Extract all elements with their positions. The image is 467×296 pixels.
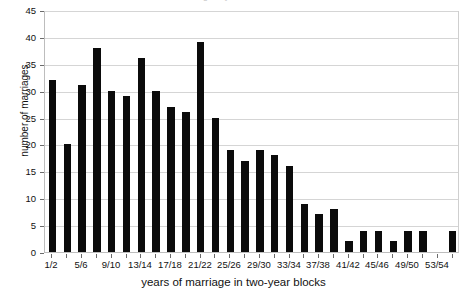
y-tick-mark xyxy=(40,145,44,146)
bar xyxy=(301,204,308,252)
bar xyxy=(404,231,411,253)
x-tick-mark xyxy=(126,254,127,258)
x-tick-mark xyxy=(244,254,245,258)
bar xyxy=(78,85,85,252)
y-tick-label: 5 xyxy=(10,221,36,231)
x-tick-mark xyxy=(214,254,215,258)
y-tick-mark xyxy=(40,92,44,93)
x-axis-title: years of marriage in two-year blocks xyxy=(0,276,467,288)
x-tick-mark xyxy=(140,254,141,258)
bar xyxy=(419,231,426,253)
y-tick-label: 30 xyxy=(10,87,36,97)
x-tick-mark xyxy=(392,254,393,258)
bar xyxy=(449,231,456,253)
y-tick-label: 40 xyxy=(10,33,36,43)
bar xyxy=(227,150,234,252)
bar xyxy=(390,241,397,252)
x-tick-mark xyxy=(363,254,364,258)
x-tick-mark xyxy=(66,254,67,258)
bar xyxy=(241,161,248,252)
y-tick-label: 20 xyxy=(10,140,36,150)
x-tick-label: 53/54 xyxy=(415,259,459,270)
y-tick-label: 25 xyxy=(10,114,36,124)
bar xyxy=(64,144,71,252)
x-tick-mark xyxy=(111,254,112,258)
bar xyxy=(360,231,367,253)
x-tick-mark xyxy=(259,254,260,258)
x-tick-mark xyxy=(200,254,201,258)
y-tick-mark xyxy=(40,199,44,200)
bar xyxy=(108,91,115,252)
x-tick-mark xyxy=(170,254,171,258)
x-tick-mark xyxy=(437,254,438,258)
y-tick-label: 15 xyxy=(10,167,36,177)
x-tick-mark xyxy=(229,254,230,258)
y-tick-mark xyxy=(40,226,44,227)
bar xyxy=(345,241,352,252)
bar xyxy=(375,231,382,253)
x-tick-mark xyxy=(96,254,97,258)
bar xyxy=(271,155,278,252)
chart-container: Marriages by time lived in… number of ma… xyxy=(0,0,467,296)
y-tick-mark xyxy=(40,11,44,12)
x-tick-mark xyxy=(289,254,290,258)
x-tick-mark xyxy=(348,254,349,258)
y-tick-mark xyxy=(40,38,44,39)
bar xyxy=(197,42,204,252)
x-tick-mark xyxy=(452,254,453,258)
bar xyxy=(93,48,100,252)
y-tick-mark xyxy=(40,119,44,120)
bar xyxy=(152,91,159,252)
x-tick-mark xyxy=(51,254,52,258)
bar xyxy=(49,80,56,252)
y-tick-mark xyxy=(40,172,44,173)
y-tick-label: 45 xyxy=(10,6,36,16)
x-tick-mark xyxy=(303,254,304,258)
x-tick-mark xyxy=(407,254,408,258)
bar xyxy=(212,118,219,252)
x-tick-mark xyxy=(155,254,156,258)
plot-area xyxy=(44,11,459,253)
x-tick-mark xyxy=(274,254,275,258)
bar xyxy=(256,150,263,252)
bars-layer xyxy=(45,12,458,252)
x-tick-mark xyxy=(318,254,319,258)
x-tick-mark xyxy=(81,254,82,258)
y-tick-mark xyxy=(40,65,44,66)
chart-title: Marriages by time lived in… xyxy=(0,0,467,1)
bar xyxy=(167,107,174,252)
bar xyxy=(123,96,130,252)
x-tick-mark xyxy=(333,254,334,258)
x-tick-mark xyxy=(422,254,423,258)
bar xyxy=(182,112,189,252)
y-tick-label: 35 xyxy=(10,60,36,70)
y-tick-mark xyxy=(40,253,44,254)
x-tick-mark xyxy=(377,254,378,258)
bar xyxy=(315,214,322,252)
y-tick-label: 10 xyxy=(10,194,36,204)
y-tick-label: 0 xyxy=(10,248,36,258)
x-tick-mark xyxy=(185,254,186,258)
bar xyxy=(286,166,293,252)
bar xyxy=(330,209,337,252)
bar xyxy=(138,58,145,252)
